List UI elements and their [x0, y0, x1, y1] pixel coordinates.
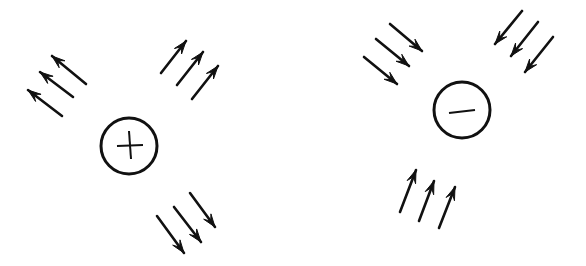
negative-upper-right-arrow-3-icon: [525, 37, 553, 72]
positive-upper-left-arrow-3-icon: [52, 56, 86, 84]
negative-charge-circle: [434, 82, 490, 138]
negative-charge-force-arrows: [364, 11, 553, 228]
negative-upper-right-arrow-2-icon: [511, 22, 538, 56]
negative-upper-right-arrow-1-icon: [495, 11, 522, 44]
positive-upper-left-arrow-1-icon: [28, 90, 62, 116]
negative-upper-left-arrow-1-icon: [364, 57, 397, 84]
negative-upper-left-arrow-3-icon: [390, 24, 422, 51]
negative-bottom-arrow-1-icon: [400, 170, 416, 212]
positive-bottom-arrow-2-icon: [174, 207, 201, 242]
positive-upper-right-arrow-1-icon: [161, 41, 186, 73]
positive-charge-force-arrows: [28, 41, 218, 253]
positive-upper-right-arrow-3-icon: [192, 66, 218, 99]
charge-field-diagram: [0, 0, 586, 266]
positive-bottom-arrow-3-icon: [190, 193, 215, 227]
plus-sign-icon: [117, 131, 143, 159]
positive-charge: [28, 41, 218, 253]
positive-upper-right-arrow-2-icon: [177, 52, 203, 85]
minus-sign-icon: [449, 110, 475, 113]
positive-bottom-arrow-1-icon: [157, 216, 184, 253]
negative-charge: [364, 11, 553, 228]
negative-bottom-arrow-2-icon: [419, 181, 434, 221]
positive-upper-left-arrow-2-icon: [40, 72, 73, 97]
negative-bottom-arrow-3-icon: [439, 187, 455, 228]
diagram-svg: [0, 0, 586, 266]
negative-upper-left-arrow-2-icon: [376, 39, 409, 66]
